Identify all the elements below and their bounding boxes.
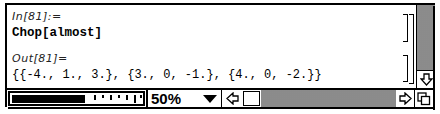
arrow-down-icon xyxy=(420,73,433,86)
window-shadow-bottom xyxy=(8,107,435,109)
grow-box[interactable] xyxy=(414,90,433,107)
resize-icon xyxy=(417,92,431,106)
horizontal-scrollbar-track[interactable] xyxy=(261,90,396,107)
arrow-right-icon xyxy=(399,92,412,105)
ruler-tick xyxy=(126,95,128,100)
cell-group-bracket[interactable] xyxy=(409,14,414,84)
bottom-bar: 50% xyxy=(7,88,433,107)
magnification-value: 50% xyxy=(151,90,181,107)
output-cell[interactable]: {{-4., 1., 3.}, {3., 0, -1.}, {4., 0, -2… xyxy=(12,68,322,82)
ruler-tick xyxy=(140,95,142,98)
magnification-popup[interactable]: 50% xyxy=(146,90,222,107)
scroll-left-button[interactable] xyxy=(224,90,240,107)
arrow-left-icon xyxy=(226,92,239,105)
ruler-fill xyxy=(12,95,85,103)
notebook-content: In[81]:= Chop[almost] Out[81]= {{-4., 1.… xyxy=(9,5,414,90)
ruler-tick xyxy=(94,95,96,100)
notebook-window: In[81]:= Chop[almost] Out[81]= {{-4., 1.… xyxy=(5,3,433,107)
ruler-tick xyxy=(118,95,120,98)
triangle-down-icon xyxy=(203,95,217,103)
window-shadow-right xyxy=(433,6,435,110)
ruler-tick xyxy=(102,95,104,98)
output-cell-bracket[interactable] xyxy=(403,55,408,82)
input-label: In[81]:= xyxy=(12,10,62,23)
ruler-tick xyxy=(134,95,136,103)
scroll-right-button[interactable] xyxy=(397,90,413,107)
magnification-ruler[interactable] xyxy=(8,91,145,106)
input-cell[interactable]: Chop[almost] xyxy=(12,26,102,40)
ruler-tick xyxy=(110,95,112,100)
horizontal-scroll-thumb[interactable] xyxy=(243,91,260,106)
input-cell-bracket[interactable] xyxy=(403,14,408,42)
output-label: Out[81]= xyxy=(12,52,68,65)
